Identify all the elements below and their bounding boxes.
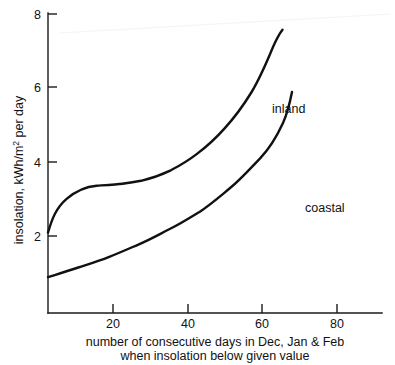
series-line-coastal bbox=[48, 92, 292, 277]
x-tick-label-20: 20 bbox=[106, 317, 120, 331]
y-tick-label-2: 2 bbox=[34, 230, 41, 244]
y-axis-ticks bbox=[48, 14, 57, 236]
x-axis-title-line2: when insolation below given value bbox=[119, 349, 309, 363]
y-axis-title: insolation, kWh/m2 per day bbox=[11, 95, 26, 244]
y-axis-title-suffix: per day bbox=[12, 95, 26, 141]
y-tick-label-8: 8 bbox=[34, 8, 41, 22]
series-annotation-inland: inland bbox=[272, 102, 305, 116]
y-axis-title-prefix: insolation, kWh/m bbox=[12, 146, 26, 245]
chart-container: 8 6 4 2 20 40 60 80 insolation, kWh/m2 p… bbox=[0, 0, 395, 365]
x-tick-label-40: 40 bbox=[181, 317, 195, 331]
y-tick-label-4: 4 bbox=[34, 156, 41, 170]
series-line-inland bbox=[48, 30, 283, 233]
x-tick-label-80: 80 bbox=[330, 317, 344, 331]
scan-artifact bbox=[60, 14, 390, 33]
y-axis-tick-labels: 8 6 4 2 bbox=[34, 8, 41, 244]
x-axis-tick-labels: 20 40 60 80 bbox=[106, 317, 344, 331]
x-axis-title-line1: number of consecutive days in Dec, Jan &… bbox=[86, 335, 345, 349]
x-axis-ticks bbox=[113, 304, 337, 313]
svg-text:insolation, kWh/m2 per day: insolation, kWh/m2 per day bbox=[11, 95, 26, 244]
x-tick-label-60: 60 bbox=[255, 317, 269, 331]
series-annotation-coastal: coastal bbox=[305, 201, 345, 215]
insolation-line-chart: 8 6 4 2 20 40 60 80 insolation, kWh/m2 p… bbox=[0, 0, 395, 365]
y-tick-label-6: 6 bbox=[34, 81, 41, 95]
